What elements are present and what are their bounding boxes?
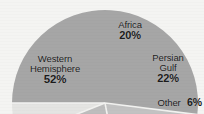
pie-slice-western-hemisphere	[12, 10, 198, 114]
pie-chart-graphic	[0, 0, 204, 114]
pie-chart-figure: Western Hemisphere 52% Africa 20% Persia…	[0, 0, 204, 114]
